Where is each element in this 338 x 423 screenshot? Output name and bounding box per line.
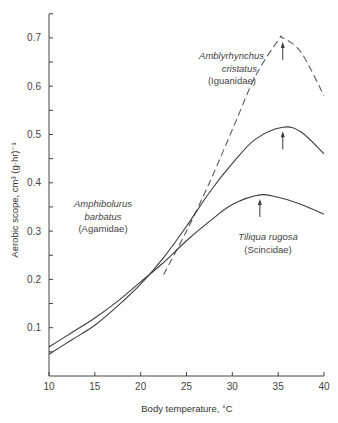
x-tick-label: 30 — [227, 381, 239, 392]
annotation-amblyrhynchus-species: cristatus — [222, 63, 258, 74]
y-tick-label: 0.1 — [27, 322, 41, 333]
arrow-head-icon — [258, 199, 262, 205]
annotation-tiliqua-name: Tiliqua rugosa — [238, 231, 298, 242]
annotation-tiliqua-family: (Scincidae) — [244, 244, 292, 255]
x-tick-label: 25 — [181, 381, 193, 392]
x-tick-label: 10 — [43, 381, 55, 392]
peak-arrows — [258, 42, 285, 217]
x-tick-label: 15 — [89, 381, 101, 392]
x-tick-label: 35 — [273, 381, 285, 392]
annotation-amphibolurus-family: (Agamidae) — [78, 223, 127, 234]
annotation-amphibolurus-species: barbatus — [85, 211, 122, 222]
aerobic-scope-chart: 101520253035400.10.20.30.40.50.60.7 Body… — [0, 0, 338, 423]
y-tick-label: 0.3 — [27, 226, 41, 237]
annotation-amblyrhynchus-family: (Iguanidae) — [208, 75, 256, 86]
annotation-amblyrhynchus-genus: Amblyrhynchus — [198, 50, 264, 61]
arrow-head-icon — [281, 42, 285, 48]
y-tick-label: 0.6 — [27, 81, 41, 92]
arrow-head-icon — [281, 131, 285, 137]
annotation-amphibolurus-genus: Amphibolurus — [73, 198, 132, 209]
x-tick-label: 40 — [318, 381, 330, 392]
axes: 101520253035400.10.20.30.40.50.60.7 — [27, 14, 330, 392]
x-tick-label: 20 — [135, 381, 147, 392]
x-axis-title: Body temperature, °C — [141, 403, 233, 414]
y-tick-label: 0.2 — [27, 274, 41, 285]
curves — [49, 36, 324, 354]
y-axis-title: Aerobic scope, cm³ (g·hr)⁻¹ — [9, 142, 20, 257]
y-tick-label: 0.7 — [27, 32, 41, 43]
y-tick-label: 0.5 — [27, 129, 41, 140]
y-tick-label: 0.4 — [27, 177, 41, 188]
